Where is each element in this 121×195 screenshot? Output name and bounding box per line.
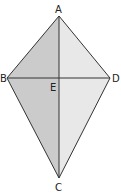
kite-diagram: A B D E C bbox=[0, 0, 121, 195]
vertex-label-a: A bbox=[55, 4, 62, 15]
right-half-fill bbox=[59, 16, 110, 178]
vertex-label-d: D bbox=[112, 73, 120, 84]
vertex-label-e: E bbox=[50, 82, 56, 93]
vertex-label-b: B bbox=[0, 73, 7, 84]
vertex-label-c: C bbox=[55, 182, 62, 193]
left-half-fill bbox=[7, 16, 59, 178]
